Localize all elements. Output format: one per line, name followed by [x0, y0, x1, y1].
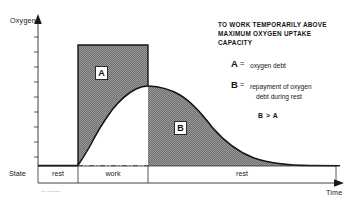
- legend-text-b-line-1: repayment of oxygen: [250, 82, 312, 92]
- x-axis-arrowhead: [334, 179, 344, 187]
- state-cell-rest-1: rest: [38, 170, 78, 178]
- y-axis-label: Oxygen: [10, 17, 36, 25]
- comparison-statement: B > A: [258, 112, 278, 120]
- x-axis-label: Time: [326, 189, 343, 197]
- legend-letter-a: A: [231, 59, 238, 70]
- region-label-a: A: [95, 66, 108, 80]
- legend-text-a: oxygen debt: [250, 61, 286, 71]
- state-cell-rest-2: rest: [148, 170, 336, 178]
- legend-letter-b: B: [231, 80, 238, 91]
- figure-code-footnote: — ———: [41, 189, 61, 194]
- state-row-label: State: [9, 170, 26, 178]
- y-axis-ticks: [34, 37, 38, 157]
- caption-line-1: TO WORK TEMPORARILY ABOVE: [218, 20, 327, 29]
- legend-text-b-line-2: debt during rest: [256, 92, 302, 102]
- caption-line-2: MAXIMUM OXYGEN UPTAKE: [218, 29, 311, 38]
- oxygen-debt-figure: Oxygen Time State rest work rest A B TO …: [0, 0, 355, 207]
- region-label-b: B: [174, 121, 187, 135]
- legend-equals-b: =: [240, 81, 244, 89]
- region-a-shape: [78, 45, 148, 165]
- legend-equals-a: =: [240, 60, 244, 68]
- caption-line-3: CAPACITY: [218, 38, 252, 47]
- state-cell-work: work: [78, 170, 148, 178]
